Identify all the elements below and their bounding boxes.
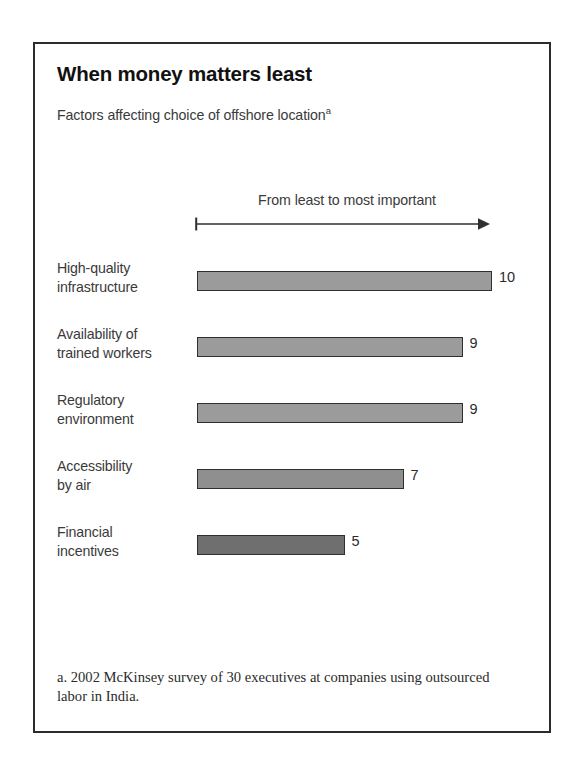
bar-category-label-line1: High-quality [57, 259, 187, 278]
bar-category-label-line2: trained workers [57, 344, 187, 363]
bar-category-label-line1: Regulatory [57, 391, 187, 410]
bar-category-label-line1: Financial [57, 523, 187, 542]
bar-category-label-line2: by air [57, 476, 187, 495]
bar [197, 403, 463, 423]
bar-category-label-line2: environment [57, 410, 187, 429]
bar-category-label: Regulatoryenvironment [57, 391, 187, 428]
bar-value-label: 10 [499, 269, 515, 285]
bar-category-label: High-qualityinfrastructure [57, 259, 187, 296]
exhibit-frame: When money matters least Factors affecti… [33, 42, 551, 733]
bar-value-label: 7 [411, 467, 419, 483]
bar-chart-plot: High-qualityinfrastructure10Availability… [35, 44, 549, 731]
bar [197, 337, 463, 357]
bar-category-label-line1: Accessibility [57, 457, 187, 476]
bar [197, 535, 345, 555]
bar-category-label-line2: incentives [57, 542, 187, 561]
bar-category-label: Accessibilityby air [57, 457, 187, 494]
footnote-text: a. 2002 McKinsey survey of 30 executives… [57, 668, 507, 705]
bar [197, 469, 404, 489]
bar [197, 271, 492, 291]
chart-row: Financialincentives5 [35, 535, 549, 601]
bar-category-label: Availability oftrained workers [57, 325, 187, 362]
bar-category-label-line1: Availability of [57, 325, 187, 344]
bar-category-label: Financialincentives [57, 523, 187, 560]
bar-value-label: 9 [470, 335, 478, 351]
bar-value-label: 5 [352, 533, 360, 549]
bar-value-label: 9 [470, 401, 478, 417]
bar-category-label-line2: infrastructure [57, 278, 187, 297]
